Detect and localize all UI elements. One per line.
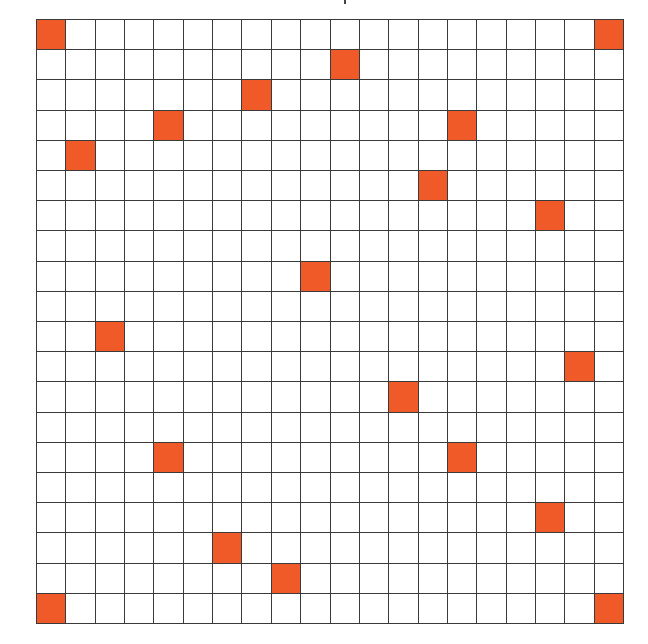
empty-cell <box>418 291 447 321</box>
empty-cell <box>447 472 476 502</box>
empty-cell <box>241 472 270 502</box>
empty-cell <box>330 412 359 442</box>
empty-cell <box>36 563 65 593</box>
empty-cell <box>153 532 182 562</box>
empty-cell <box>153 291 182 321</box>
empty-cell <box>594 140 623 170</box>
empty-cell <box>418 110 447 140</box>
empty-cell <box>124 442 153 472</box>
empty-cell <box>418 351 447 381</box>
empty-cell <box>447 381 476 411</box>
empty-cell <box>594 200 623 230</box>
empty-cell <box>36 110 65 140</box>
empty-cell <box>183 230 212 260</box>
empty-cell <box>359 502 388 532</box>
empty-cell <box>95 412 124 442</box>
empty-cell <box>95 19 124 49</box>
empty-cell <box>95 563 124 593</box>
empty-cell <box>65 200 94 230</box>
empty-cell <box>271 140 300 170</box>
empty-cell <box>564 230 593 260</box>
empty-cell <box>476 563 505 593</box>
filled-cell <box>447 110 476 140</box>
empty-cell <box>65 110 94 140</box>
empty-cell <box>183 49 212 79</box>
empty-cell <box>124 200 153 230</box>
empty-cell <box>447 321 476 351</box>
empty-cell <box>476 19 505 49</box>
empty-cell <box>183 291 212 321</box>
empty-cell <box>65 442 94 472</box>
empty-cell <box>447 593 476 623</box>
empty-cell <box>359 532 388 562</box>
empty-cell <box>183 321 212 351</box>
empty-cell <box>271 291 300 321</box>
empty-cell <box>447 140 476 170</box>
empty-cell <box>124 140 153 170</box>
empty-cell <box>506 140 535 170</box>
empty-cell <box>65 502 94 532</box>
empty-cell <box>95 110 124 140</box>
empty-cell <box>36 412 65 442</box>
empty-cell <box>535 442 564 472</box>
empty-cell <box>388 532 417 562</box>
empty-cell <box>330 502 359 532</box>
empty-cell <box>65 230 94 260</box>
empty-cell <box>65 412 94 442</box>
empty-cell <box>271 593 300 623</box>
filled-cell <box>65 140 94 170</box>
empty-cell <box>241 140 270 170</box>
empty-cell <box>241 502 270 532</box>
empty-cell <box>476 412 505 442</box>
empty-cell <box>594 412 623 442</box>
empty-cell <box>388 412 417 442</box>
empty-cell <box>418 532 447 562</box>
empty-cell <box>212 381 241 411</box>
empty-cell <box>212 563 241 593</box>
empty-cell <box>124 563 153 593</box>
empty-cell <box>535 19 564 49</box>
empty-cell <box>447 502 476 532</box>
filled-cell <box>212 532 241 562</box>
empty-cell <box>594 472 623 502</box>
empty-cell <box>418 442 447 472</box>
empty-cell <box>330 472 359 502</box>
empty-cell <box>330 442 359 472</box>
empty-cell <box>330 321 359 351</box>
empty-cell <box>36 532 65 562</box>
empty-cell <box>241 412 270 442</box>
empty-cell <box>594 563 623 593</box>
empty-cell <box>506 291 535 321</box>
empty-cell <box>271 351 300 381</box>
empty-cell <box>476 170 505 200</box>
filled-cell <box>153 110 182 140</box>
empty-cell <box>300 19 329 49</box>
empty-cell <box>564 472 593 502</box>
empty-cell <box>241 170 270 200</box>
empty-cell <box>506 110 535 140</box>
empty-cell <box>388 19 417 49</box>
filled-cell <box>594 593 623 623</box>
empty-cell <box>124 381 153 411</box>
empty-cell <box>594 532 623 562</box>
empty-cell <box>300 230 329 260</box>
empty-cell <box>594 110 623 140</box>
empty-cell <box>300 381 329 411</box>
empty-cell <box>183 79 212 109</box>
empty-cell <box>183 563 212 593</box>
empty-cell <box>300 110 329 140</box>
empty-cell <box>564 442 593 472</box>
empty-cell <box>124 261 153 291</box>
empty-cell <box>212 593 241 623</box>
empty-cell <box>564 502 593 532</box>
empty-cell <box>212 140 241 170</box>
empty-cell <box>388 472 417 502</box>
empty-cell <box>65 472 94 502</box>
empty-cell <box>300 472 329 502</box>
empty-cell <box>271 442 300 472</box>
empty-cell <box>241 442 270 472</box>
empty-cell <box>418 381 447 411</box>
empty-cell <box>300 140 329 170</box>
empty-cell <box>36 230 65 260</box>
empty-cell <box>447 351 476 381</box>
